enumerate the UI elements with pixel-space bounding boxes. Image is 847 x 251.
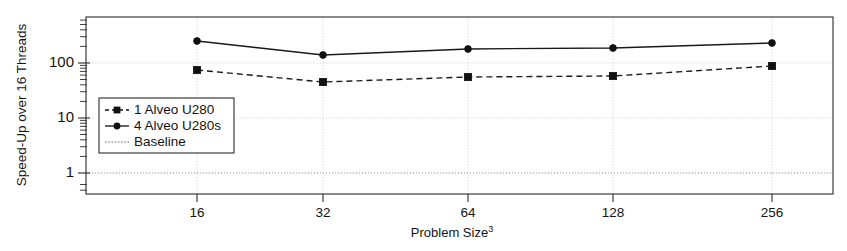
series-4-alveo-u280s-line [197, 41, 772, 55]
x-axis-title-text: Problem Size [411, 225, 488, 240]
datapoint-1alveo-16 [193, 66, 200, 73]
grid-vertical [197, 17, 772, 194]
datapoint-1alveo-64 [464, 73, 471, 80]
y-axis-title: Speed-Up over 16 Threads [14, 23, 29, 186]
chart-canvas: 100 10 1 Speed-Up over 16 Threads 16 32 … [0, 0, 847, 251]
speedup-line-chart: 100 10 1 Speed-Up over 16 Threads 16 32 … [0, 0, 847, 251]
xtick-label-16: 16 [189, 205, 204, 220]
xtick-label-64: 64 [460, 205, 476, 220]
chart-legend: 1 Alveo U280 4 Alveo U280s Baseline [99, 98, 234, 153]
ytick-label-1: 1 [66, 163, 74, 180]
datapoint-4alveo-256 [769, 40, 776, 47]
x-tick-labels: 16 32 64 128 256 [189, 205, 783, 220]
legend-circle-marker-icon [114, 123, 121, 130]
legend-label-baseline: Baseline [134, 134, 186, 149]
datapoint-4alveo-64 [465, 46, 472, 53]
datapoint-1alveo-128 [609, 72, 616, 79]
datapoint-4alveo-32 [320, 52, 327, 59]
series-4-alveo-u280s [194, 38, 776, 59]
legend-label-1-alveo-u280: 1 Alveo U280 [134, 102, 214, 117]
datapoint-1alveo-256 [768, 62, 775, 69]
datapoint-1alveo-32 [319, 78, 326, 85]
legend-square-marker-icon [114, 107, 121, 114]
y-tick-labels: 100 10 1 [49, 53, 74, 180]
datapoint-4alveo-16 [194, 38, 201, 45]
x-axis-title-superscript: 3 [488, 224, 493, 234]
series-1-alveo-u280 [193, 62, 775, 85]
xtick-label-256: 256 [761, 205, 784, 220]
x-axis-ticks [197, 194, 772, 202]
xtick-label-32: 32 [315, 205, 330, 220]
ytick-label-100: 100 [49, 53, 74, 70]
xtick-label-128: 128 [602, 205, 625, 220]
series-1-alveo-u280-line [197, 66, 772, 82]
ytick-label-10: 10 [57, 108, 74, 125]
legend-label-4-alveo-u280s: 4 Alveo U280s [134, 118, 221, 133]
datapoint-4alveo-128 [610, 45, 617, 52]
x-axis-title: Problem Size3 [411, 224, 493, 240]
